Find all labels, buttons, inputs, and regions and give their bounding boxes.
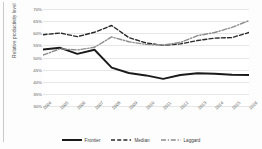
y-axis-tick-label: 40% <box>18 79 42 84</box>
x-axis-tick-labels: 2004200520062007200820092010201120122013… <box>43 107 249 133</box>
y-axis-title: Relative productivity level <box>12 0 17 73</box>
legend-item-laggard[interactable]: Laggard <box>161 137 201 143</box>
legend-swatch-dashed-icon <box>111 137 131 143</box>
legend-swatch-dashdot-icon <box>161 137 181 143</box>
chart-legend: FrontierMedianLaggard <box>0 133 262 147</box>
legend-swatch-solid-icon <box>62 137 82 143</box>
x-axis-tick-label: 2016 <box>248 100 258 110</box>
y-axis-tick-label: 35% <box>18 91 42 96</box>
y-axis-tick-label: 60% <box>18 31 42 36</box>
y-axis-tick-label: 45% <box>18 67 42 72</box>
page-edge-rule <box>3 2 4 142</box>
legend-label: Frontier <box>85 138 101 143</box>
y-axis-tick-label: 30% <box>18 104 42 109</box>
series-lines <box>43 9 249 106</box>
plot-area <box>43 9 249 106</box>
y-axis-tick-label: 65% <box>18 19 42 24</box>
series-line-frontier <box>43 48 249 79</box>
y-axis-tick-label: 70% <box>18 7 42 12</box>
y-axis-tick-label: 55% <box>18 43 42 48</box>
legend-label: Median <box>134 138 149 143</box>
series-line-median <box>43 25 249 45</box>
y-axis-tick-label: 50% <box>18 55 42 60</box>
legend-label: Laggard <box>184 138 201 143</box>
y-axis-tick-labels: 70%65%60%55%50%45%40%35%30% <box>18 9 42 106</box>
chart-figure: Relative productivity level 70%65%60%55%… <box>0 0 262 149</box>
legend-item-frontier[interactable]: Frontier <box>62 137 101 143</box>
legend-item-median[interactable]: Median <box>111 137 149 143</box>
